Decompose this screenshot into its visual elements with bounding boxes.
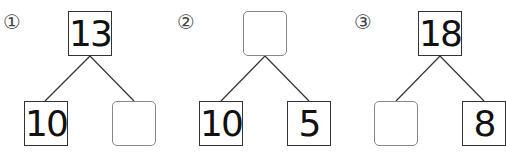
- bottom-left-number-box: 10: [24, 101, 68, 146]
- bottom-right-number-box: 5: [287, 101, 331, 146]
- top-number-box: 13: [68, 11, 112, 56]
- answer-box[interactable]: [243, 11, 287, 56]
- top-number-box: 18: [418, 11, 462, 56]
- problem-number-1: ①: [3, 12, 21, 32]
- bottom-left-number-box: 10: [199, 101, 243, 146]
- bottom-right-number-box: 8: [462, 101, 506, 146]
- answer-box[interactable]: [374, 101, 418, 146]
- problem-number-2: ②: [177, 12, 195, 32]
- answer-box[interactable]: [112, 101, 156, 146]
- problem-number-3: ③: [354, 12, 372, 32]
